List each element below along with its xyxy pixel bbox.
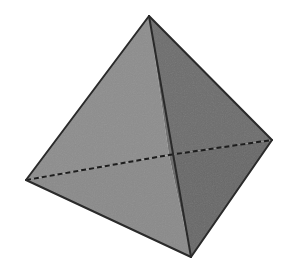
tetrahedron-svg [0,0,287,270]
figure-canvas [0,0,287,270]
